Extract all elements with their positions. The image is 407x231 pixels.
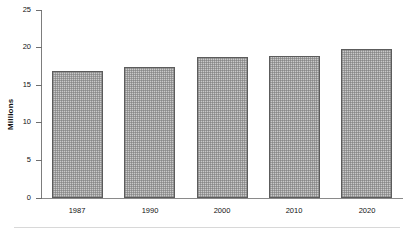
x-axis-label-1990: 1990	[120, 206, 180, 215]
bar-2000	[197, 57, 248, 198]
x-axis-line	[41, 198, 403, 199]
x-axis-label-1987: 1987	[47, 206, 107, 215]
x-axis-label-2020: 2020	[337, 206, 397, 215]
y-axis-tick-label: 5	[0, 156, 31, 164]
y-axis-tick-label: 0	[0, 194, 31, 202]
bar-2010	[269, 56, 320, 198]
scan-artifact-line	[14, 227, 400, 228]
y-axis-tick-label: 25	[0, 6, 31, 14]
bar-1987	[52, 71, 103, 198]
bar-2020	[341, 49, 392, 198]
bar-chart: Millions 2520151050 19871990200020102020	[0, 0, 407, 231]
x-axis-label-2010: 2010	[264, 206, 324, 215]
y-axis-tick-label: 15	[0, 81, 31, 89]
bar-1990	[124, 67, 175, 198]
y-axis-tick	[36, 198, 42, 199]
plot-area	[41, 10, 403, 198]
y-axis-tick-label: 20	[0, 43, 31, 51]
y-axis-tick-label: 10	[0, 118, 31, 126]
x-axis-label-2000: 2000	[192, 206, 252, 215]
y-axis-title: Millions	[4, 84, 18, 144]
